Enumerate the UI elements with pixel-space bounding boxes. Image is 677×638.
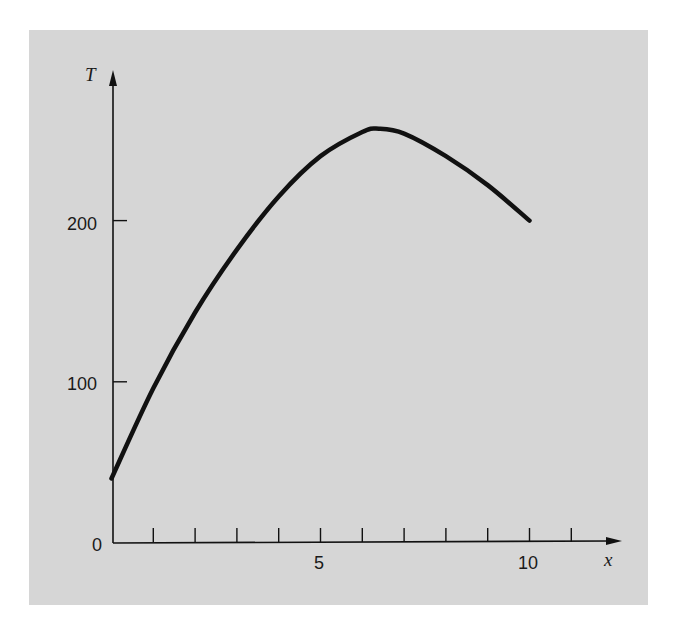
origin-label: 0	[92, 535, 102, 555]
data-curve	[112, 128, 530, 478]
x-tick-label-5: 5	[314, 553, 324, 573]
x-axis-label: x	[603, 549, 613, 570]
x-axis-line	[113, 541, 610, 543]
y-axis-arrow-icon	[109, 70, 117, 86]
y-tick-label-200: 200	[67, 214, 97, 234]
chart: T x 0 100 200 5 10	[0, 0, 677, 638]
axes	[109, 70, 622, 545]
x-tick-label-10: 10	[518, 553, 538, 573]
ticks	[113, 221, 571, 542]
y-tick-label-100: 100	[67, 374, 97, 394]
y-axis-label: T	[85, 64, 97, 85]
x-axis-arrow-icon	[606, 537, 622, 545]
